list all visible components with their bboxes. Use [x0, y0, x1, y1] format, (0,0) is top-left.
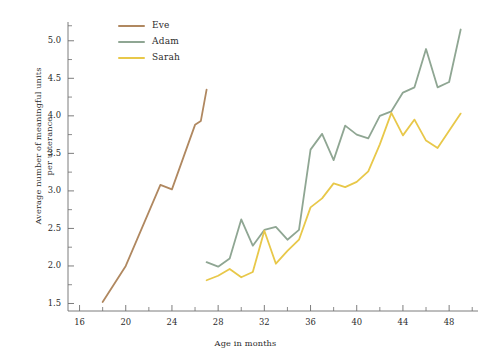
x-tick-label: 20 [113, 317, 139, 327]
legend-item-adam: Adam [118, 34, 180, 50]
y-axis-title: Average number of meaningful units per u… [33, 16, 55, 276]
plot-area [0, 0, 491, 360]
legend-item-sarah: Sarah [118, 50, 180, 66]
x-tick-label: 32 [251, 317, 277, 327]
series-line-eve [103, 90, 207, 302]
x-tick-label: 16 [67, 317, 93, 327]
line-chart: Eve Adam Sarah Average number of meaning… [0, 0, 491, 360]
y-tick-label: 2.5 [35, 223, 61, 233]
legend-label-adam: Adam [152, 37, 179, 46]
chart-legend: Eve Adam Sarah [118, 18, 180, 66]
y-tick-label: 3.5 [35, 148, 61, 158]
x-tick-label: 28 [205, 317, 231, 327]
legend-label-sarah: Sarah [152, 53, 180, 62]
x-tick-label: 36 [298, 317, 324, 327]
y-tick-label: 3.0 [35, 185, 61, 195]
y-axis-title-line-2: per utterance [44, 16, 55, 276]
y-tick-label: 2.0 [35, 260, 61, 270]
legend-swatch-eve [118, 25, 145, 27]
x-axis-title: Age in months [0, 338, 491, 348]
y-axis-title-line-1: Average number of meaningful units [33, 16, 44, 276]
x-tick-label: 40 [344, 317, 370, 327]
series-line-adam [207, 30, 461, 267]
x-tick-label: 48 [436, 317, 462, 327]
y-tick-label: 5.0 [35, 35, 61, 45]
y-tick-label: 4.5 [35, 73, 61, 83]
series-line-sarah [207, 113, 461, 280]
legend-label-eve: Eve [152, 21, 170, 30]
y-tick-label: 1.5 [35, 298, 61, 308]
y-tick-label: 4.0 [35, 110, 61, 120]
legend-swatch-sarah [118, 57, 145, 59]
x-tick-label: 24 [159, 317, 185, 327]
legend-swatch-adam [118, 41, 145, 43]
x-tick-label: 44 [390, 317, 416, 327]
legend-item-eve: Eve [118, 18, 180, 34]
